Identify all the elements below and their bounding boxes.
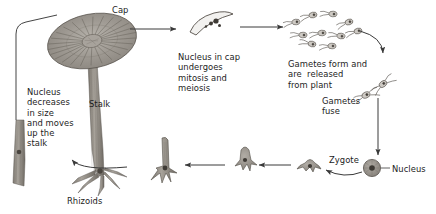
label-cap: Cap [112,5,128,15]
label-rhizoids: Rhizoids [67,196,102,206]
label-nucleus-zygote: Nucleus [392,164,426,174]
zygote-figure [363,159,390,176]
germling-small-figure [297,160,321,173]
label-gametes-fuse: Gametes fuse [322,96,360,117]
label-zygote: Zygote [329,155,359,165]
germling-medium-figure [235,147,257,171]
label-stalk: Stalk [89,99,110,109]
label-gametes-form: Gametes form and are released from plant [288,59,367,90]
stalk-fragment-figure [13,120,25,186]
label-nucleus-moves-up: Nucleus decreases in size and moves up t… [27,87,74,149]
arrow-zygote-to-germling [326,170,362,175]
cap-section-figure [190,12,233,35]
label-mitosis-meiosis: Nucleus in cap undergoes mitosis and mei… [178,52,240,93]
arrow-gametes-to-fusion [360,31,383,53]
free-gametes-figure [283,10,363,50]
diagram-canvas: Cap Nucleus in cap undergoes mitosis and… [0,0,436,214]
germling-large-figure [151,137,177,183]
